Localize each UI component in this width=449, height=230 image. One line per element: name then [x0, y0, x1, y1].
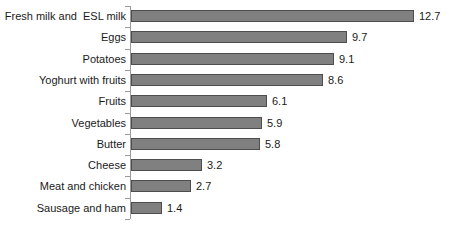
- bar: [131, 180, 191, 192]
- category-label: Vegetables: [2, 113, 126, 133]
- category-label: Butter: [2, 134, 126, 154]
- bar: [131, 10, 414, 22]
- bar-row: Potatoes9.1: [0, 49, 449, 69]
- bar: [131, 31, 347, 43]
- bar-row: Meat and chicken2.7: [0, 176, 449, 196]
- category-label: Fruits: [2, 91, 126, 111]
- bar-value-label: 1.4: [162, 198, 182, 218]
- bar: [131, 117, 262, 129]
- category-label: Fresh milk and ESL milk: [2, 6, 126, 26]
- bar-row: Eggs9.7: [0, 27, 449, 47]
- bar: [131, 74, 323, 86]
- category-label: Eggs: [2, 27, 126, 47]
- category-label: Sausage and ham: [2, 198, 126, 218]
- bar-row: Vegetables5.9: [0, 113, 449, 133]
- bar-value-label: 9.1: [334, 49, 354, 69]
- bar-value-label: 9.7: [347, 27, 367, 47]
- bar-value-label: 12.7: [414, 6, 440, 26]
- bar-row: Cheese3.2: [0, 155, 449, 175]
- bar-chart: Fresh milk and ESL milk12.7Eggs9.7Potato…: [0, 0, 449, 230]
- bar-value-label: 6.1: [267, 91, 287, 111]
- bar: [131, 202, 162, 214]
- bar-row: Fruits6.1: [0, 91, 449, 111]
- category-label: Yoghurt with fruits: [2, 70, 126, 90]
- bar-value-label: 3.2: [202, 155, 222, 175]
- bar: [131, 159, 202, 171]
- bar-value-label: 5.8: [260, 134, 280, 154]
- plot-area: Fresh milk and ESL milk12.7Eggs9.7Potato…: [0, 0, 449, 230]
- bar-value-label: 5.9: [262, 113, 282, 133]
- category-axis-tick: [125, 219, 130, 220]
- category-label: Meat and chicken: [2, 176, 126, 196]
- bar-value-label: 8.6: [323, 70, 343, 90]
- bar: [131, 138, 260, 150]
- bar-row: Sausage and ham1.4: [0, 198, 449, 218]
- bar-row: Yoghurt with fruits8.6: [0, 70, 449, 90]
- bar: [131, 95, 267, 107]
- category-label: Cheese: [2, 155, 126, 175]
- category-label: Potatoes: [2, 49, 126, 69]
- bar-row: Butter5.8: [0, 134, 449, 154]
- bar: [131, 53, 334, 65]
- bar-value-label: 2.7: [191, 176, 211, 196]
- bar-row: Fresh milk and ESL milk12.7: [0, 6, 449, 26]
